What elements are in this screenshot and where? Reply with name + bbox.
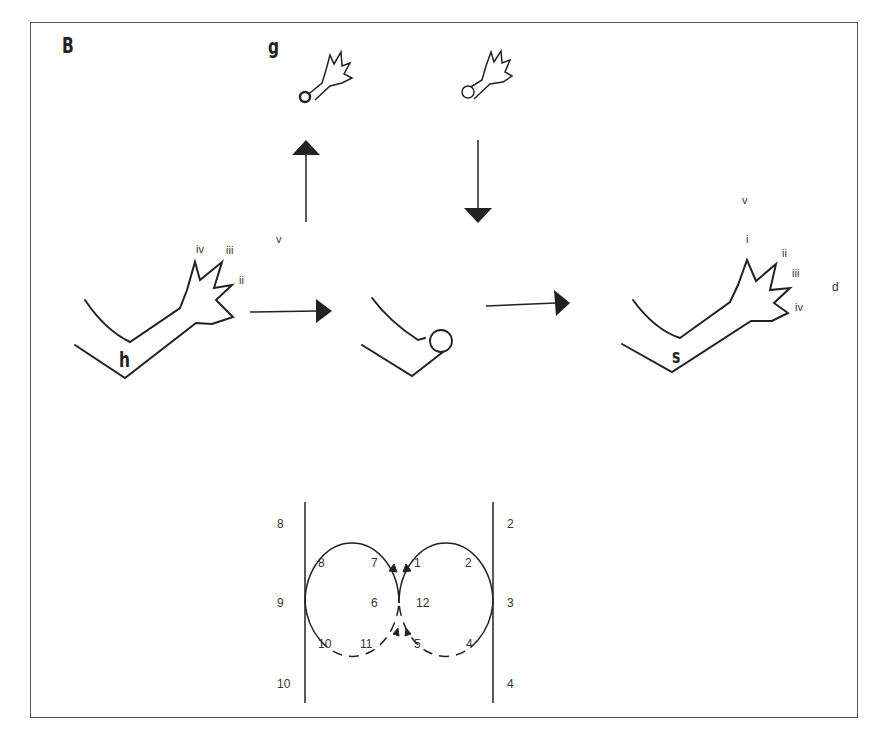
up-arrow-icon xyxy=(292,140,320,222)
finger-label-iii: iii xyxy=(226,245,233,256)
loop-left-11: 11 xyxy=(360,638,372,650)
finger-label-ii: ii xyxy=(239,275,244,286)
loop-right-12: 12 xyxy=(416,597,429,609)
outer-left-10: 10 xyxy=(277,678,290,690)
finger-label-ii-right: ii xyxy=(782,248,787,259)
outer-left-8: 8 xyxy=(277,518,284,530)
finger-label-i: i xyxy=(746,234,748,245)
outer-right-3: 3 xyxy=(507,597,514,609)
loop-right-1: 1 xyxy=(414,557,421,569)
loop-right-4: 4 xyxy=(466,638,473,650)
panel-label: B xyxy=(62,35,74,57)
gesture-hand-crumpled-icon xyxy=(300,52,352,102)
finger-label-iv-right: iv xyxy=(795,302,803,313)
arm-spread-hand-icon xyxy=(622,260,790,372)
outer-left-9: 9 xyxy=(277,597,284,609)
loop-right-5: 5 xyxy=(414,638,421,650)
loop-left-8: 8 xyxy=(318,557,325,569)
finger-label-iii-right: iii xyxy=(792,268,799,279)
outer-right-4: 4 xyxy=(507,678,514,690)
right-arrow-2-icon xyxy=(486,290,570,316)
hand-end-label: s xyxy=(672,346,680,366)
arm-ball-icon xyxy=(362,298,452,376)
loop-left-10: 10 xyxy=(318,638,331,650)
finger-label-iv: iv xyxy=(196,244,204,255)
right-arrow-1-icon xyxy=(250,299,332,323)
hand-start-label: h xyxy=(119,349,130,371)
down-arrow-icon xyxy=(464,140,492,223)
hand-start-top-label: v xyxy=(276,234,282,245)
gesture-label: g xyxy=(268,36,279,58)
outer-right-2: 2 xyxy=(507,518,514,530)
loop-left-7: 7 xyxy=(371,557,378,569)
hand-end-top-label: v xyxy=(742,195,748,206)
loop-right-2: 2 xyxy=(465,557,472,569)
loop-diagram xyxy=(305,502,493,703)
hand-end-side-label: d xyxy=(832,281,839,293)
diagram-canvas xyxy=(0,0,880,738)
arm-open-hand-icon xyxy=(75,262,233,378)
gesture-hand-ball-icon xyxy=(462,51,512,99)
loop-left-6: 6 xyxy=(371,597,378,609)
